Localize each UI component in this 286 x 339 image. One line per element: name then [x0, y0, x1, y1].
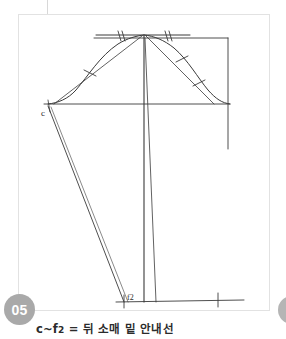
step-badge: 05: [4, 294, 35, 325]
cap-chord-left: [54, 36, 142, 104]
label-point-f2: f2: [127, 293, 134, 302]
caption-rest: = 뒤 소매 밑 안내선: [65, 322, 174, 336]
notch-top-left-a: [118, 31, 121, 41]
diagram-caption: c~f2 = 뒤 소매 밑 안내선: [36, 320, 174, 336]
notch-top-left-b: [122, 31, 125, 41]
page-margin-rule: [47, 0, 48, 15]
sleeve-cap-curve-right: [144, 35, 230, 104]
page-root: c f2 05 c~f2 = 뒤 소매 밑 안내선: [0, 0, 286, 339]
under-sleeve-seam-left: [48, 106, 124, 302]
notch-top-right-b: [169, 31, 172, 41]
pattern-diagram: c f2: [18, 14, 270, 314]
notch-top-right-a: [165, 31, 168, 41]
cap-chord-right: [146, 36, 214, 104]
next-step-badge-partial: [278, 296, 286, 324]
label-point-c: c: [41, 108, 45, 118]
back-sleeve-center-line: [145, 38, 156, 302]
hem-guide-line: [116, 300, 244, 302]
under-sleeve-seam-left-inner: [51, 107, 128, 302]
caption-prefix: c~f: [36, 322, 58, 336]
